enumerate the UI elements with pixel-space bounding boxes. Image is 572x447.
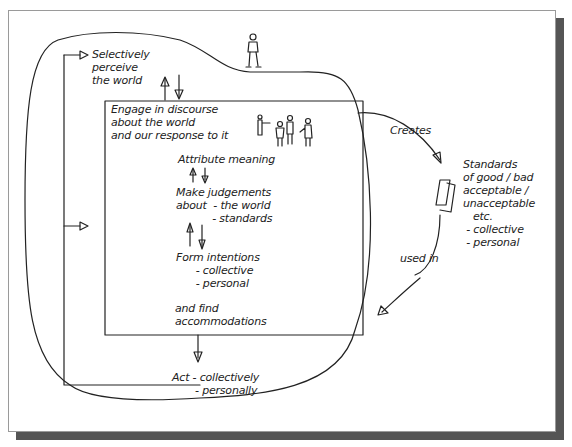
label-find-accommodations: and find accommodations <box>175 302 266 328</box>
label-creates: Creates <box>390 124 431 137</box>
label-engage-discourse: Engage in discourse about the world and … <box>111 103 228 142</box>
label-form-intentions: Form intentions - collective - personal <box>176 251 260 290</box>
label-attribute-meaning: Attribute meaning <box>178 153 275 166</box>
group-of-people-figure <box>258 115 312 146</box>
label-used-in: used in <box>400 252 439 265</box>
label-act: Act - collectively - personally <box>172 371 259 397</box>
observer-figure <box>246 34 261 67</box>
label-standards: Standards of good / bad acceptable / una… <box>463 158 535 249</box>
label-make-judgements: Make judgements about - the world - stan… <box>176 186 272 225</box>
label-selectively-perceive: Selectively perceive the world <box>92 48 150 87</box>
